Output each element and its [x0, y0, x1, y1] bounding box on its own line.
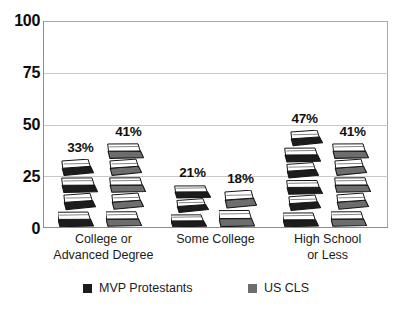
bar-series-container: 33%	[44, 21, 388, 227]
y-axis: 100 75 50 25 0	[0, 0, 40, 310]
y-tick-label-50: 50	[4, 117, 40, 133]
legend-label: MVP Protestants	[99, 281, 193, 295]
bar-value-label: 18%	[205, 172, 277, 186]
x-axis-label-line2: or Less	[258, 248, 398, 264]
plot-area: 33%	[43, 21, 388, 228]
x-axis-category-labels: College orAdvanced DegreeSome CollegeHig…	[43, 232, 388, 276]
book-stack-icon	[219, 190, 263, 227]
legend-entry-2: US CLS	[248, 281, 309, 295]
book-stack-icon	[106, 142, 150, 227]
bar-group-3-series-2: 41%	[331, 142, 375, 227]
bar-group-2-series-1: 21%	[171, 184, 215, 227]
x-axis-label-line1: High School	[258, 232, 398, 248]
y-tick-label-25: 25	[4, 169, 40, 185]
book-stack-icon	[58, 159, 102, 227]
y-tick-label-100: 100	[4, 13, 40, 29]
legend-swatch-icon	[248, 284, 257, 293]
legend-label: US CLS	[264, 281, 309, 295]
bar-value-label: 41%	[92, 125, 164, 139]
bar-group-3-series-1: 47%	[283, 130, 327, 227]
x-axis-label-line2: Advanced Degree	[33, 248, 173, 264]
legend-swatch-icon	[83, 284, 92, 293]
bar-group-1-series-1: 33%	[58, 159, 102, 227]
legend-entry-1: MVP Protestants	[83, 281, 193, 295]
x-axis-label-3: High Schoolor Less	[258, 232, 398, 263]
book-stack-icon	[283, 130, 327, 227]
book-stack-icon	[331, 142, 375, 227]
chart-figure: 100 75 50 25 0	[0, 0, 402, 310]
bar-value-label: 41%	[317, 125, 389, 139]
y-tick-label-75: 75	[4, 65, 40, 81]
book-stack-icon	[171, 184, 215, 227]
bar-group-2-series-2: 18%	[219, 190, 263, 227]
bar-group-1-series-2: 41%	[106, 142, 150, 227]
chart-legend: MVP ProtestantsUS CLS	[43, 281, 388, 303]
